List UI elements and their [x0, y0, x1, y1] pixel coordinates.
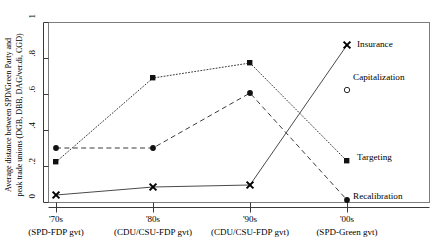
x-axis	[49, 203, 430, 213]
data-point-marker	[344, 158, 349, 163]
y-tick-label-06: .6	[27, 86, 37, 102]
y-tick-label-08: .8	[27, 50, 37, 66]
x-tick-label: '90s	[196, 213, 304, 226]
series-capitalization	[344, 87, 349, 92]
data-point-marker	[247, 90, 253, 96]
legend-label-targeting: Targeting	[357, 152, 392, 162]
y-axis	[44, 23, 49, 203]
legend-label-capitalization: Capitalization	[353, 72, 405, 82]
data-point-marker	[53, 159, 58, 164]
y-tick-label-1: 1	[27, 14, 37, 30]
x-tick-label: '70s	[2, 213, 110, 226]
plot-frame	[49, 23, 430, 203]
x-tick-sublabel: (SPD-Green gvt)	[293, 226, 401, 239]
x-tick-80s: '80s (CDU/CSU-FDP gvt)	[99, 213, 207, 238]
data-point-marker	[344, 87, 349, 92]
x-tick-sublabel: (SPD-FDP gvt)	[2, 226, 110, 239]
x-tick-label: '80s	[99, 213, 207, 226]
y-tick-label-0: 0	[27, 194, 37, 210]
data-point-marker	[53, 145, 59, 151]
y-tick-label-02: .2	[27, 158, 37, 174]
y-tick-label-04: .4	[27, 122, 37, 138]
legend-label-recalibration: Recalibration	[353, 191, 403, 201]
legend-label-insurance: Insurance	[357, 39, 393, 49]
data-point-marker	[150, 75, 155, 80]
x-tick-90s: '90s (CDU/CSU-FDP gvt)	[196, 213, 304, 238]
x-tick-sublabel: (CDU/CSU-FDP gvt)	[196, 226, 304, 239]
x-tick-sublabel: (CDU/CSU-FDP gvt)	[99, 226, 207, 239]
chart-figure: Average distance between SPD/Green Party…	[0, 0, 435, 251]
x-tick-00s: '00s (SPD-Green gvt)	[293, 213, 401, 238]
data-point-marker	[150, 145, 156, 151]
data-point-marker	[247, 60, 252, 65]
x-tick-70s: '70s (SPD-FDP gvt)	[2, 213, 110, 238]
data-point-marker	[344, 197, 350, 203]
x-tick-label: '00s	[293, 213, 401, 226]
